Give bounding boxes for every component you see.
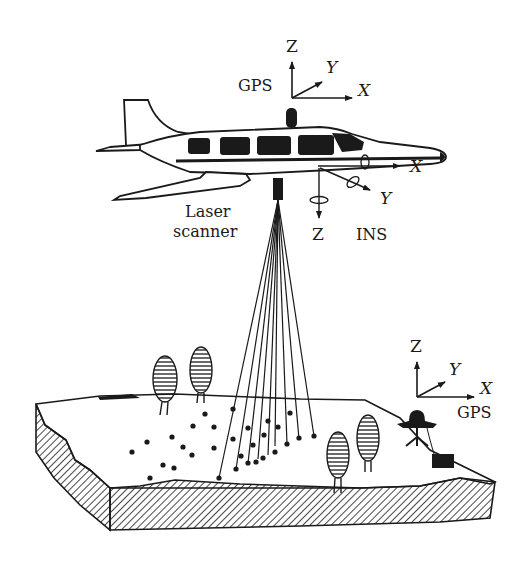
ground-gps-label: GPS [457, 403, 492, 422]
ins-y-label: Y [380, 188, 393, 208]
ground-gps-axes: Z Y X GPS [410, 336, 493, 422]
aircraft-gps-y-label: Y [326, 57, 339, 77]
aircraft-gps-x-label: X [356, 80, 371, 100]
laser-scanner-label-line1: Laser [185, 202, 231, 221]
ins-label: INS [356, 225, 387, 244]
aircraft-gps-z-label: Z [286, 36, 298, 56]
ground-gps-y-label: Y [449, 359, 462, 379]
lidar-diagram: Z Y X GPS X Y Z [0, 0, 530, 577]
aircraft [96, 100, 446, 200]
aircraft-gps-label: GPS [238, 76, 273, 95]
ground-gps-x-label: X [478, 378, 493, 398]
ground-gps-z-label: Z [410, 336, 422, 356]
laser-scanner-icon [273, 178, 283, 200]
ins-x-label: X [408, 156, 423, 176]
gps-antenna-icon [286, 108, 297, 128]
aircraft-gps-axes: Z Y X GPS [238, 36, 371, 100]
laser-scanner-label-line2: scanner [173, 222, 238, 241]
ins-z-label: Z [312, 224, 324, 244]
terrain-block [36, 394, 495, 530]
receiver-box-icon [432, 454, 454, 468]
